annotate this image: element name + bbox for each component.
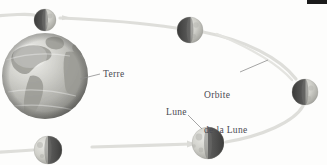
moon-bottom-left bbox=[34, 136, 63, 164]
earth-specular-highlight bbox=[13, 44, 47, 68]
label-orbite-line2: de la Lune bbox=[204, 125, 248, 137]
orbit-diagram bbox=[0, 0, 327, 165]
figure-canvas: Terre Orbite de la Lune Lune bbox=[0, 0, 327, 165]
orbit-segment-lower-left-a bbox=[92, 144, 191, 147]
label-terre: Terre bbox=[103, 69, 125, 81]
orbit-segment-upper-left-b bbox=[60, 18, 176, 28]
label-orbite: Orbite de la Lune bbox=[204, 67, 248, 159]
orbit-segment-lower-left-b bbox=[0, 150, 33, 153]
label-orbite-line1: Orbite bbox=[204, 90, 248, 102]
page-edge-mark bbox=[307, 0, 327, 4]
moon-top-right bbox=[177, 17, 203, 43]
moon-right bbox=[292, 79, 318, 105]
label-lune: Lune bbox=[166, 107, 187, 119]
leader-line-lune bbox=[188, 115, 202, 129]
moon-top-left bbox=[34, 9, 56, 31]
earth-globe bbox=[2, 33, 88, 119]
orbit-segment-upper-left-a bbox=[0, 14, 34, 17]
